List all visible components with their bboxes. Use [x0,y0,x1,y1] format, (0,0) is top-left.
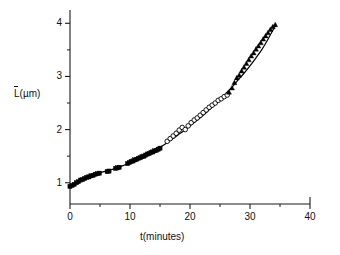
series-filled-squares [68,146,162,188]
y-axis-ticks [65,23,70,182]
y-tick-label: 3 [44,70,62,81]
x-axis-label: t(minutes) [140,231,184,242]
series-filled-triangles [227,22,278,94]
y-axis-label: L(µm) [14,88,66,100]
y-axis-label-symbol: L [14,88,20,100]
x-tick-label: 40 [300,211,320,222]
chart-figure: L(µm) t(minutes) 010203040 1234 [0,0,340,255]
fit-curve [70,25,276,187]
x-tick-label: 30 [240,211,260,222]
x-axis-ticks [70,204,310,209]
x-tick-label: 0 [60,211,80,222]
y-tick-label: 4 [44,17,62,28]
x-tick-label: 20 [180,211,200,222]
y-axis-label-unit: (µm) [20,88,41,99]
x-tick-label: 10 [120,211,140,222]
series-open-circles [165,93,230,144]
axis-frame [70,10,310,204]
y-tick-label: 2 [44,124,62,135]
y-tick-label: 1 [44,177,62,188]
